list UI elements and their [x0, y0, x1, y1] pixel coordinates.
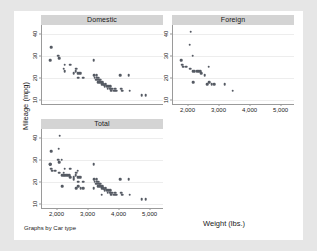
x-tick-label: 3,000 — [80, 211, 95, 217]
y-tick-label: 10 — [31, 97, 38, 103]
data-point — [58, 134, 61, 137]
data-point — [79, 176, 82, 179]
y-tick-mark — [39, 203, 41, 204]
data-point — [93, 163, 96, 166]
y-tick-mark — [170, 33, 172, 34]
data-point — [189, 68, 192, 71]
y-tick-mark — [39, 181, 41, 182]
data-point — [192, 81, 195, 84]
y-tick-mark — [170, 99, 172, 100]
panel-title-total: Total — [41, 119, 163, 129]
data-point — [93, 187, 96, 190]
data-point — [203, 74, 206, 77]
x-axis-title: Weight (lbs.) — [164, 219, 284, 228]
data-point — [63, 70, 66, 73]
x-tick-mark — [149, 208, 150, 210]
y-tick-label: 30 — [31, 157, 38, 163]
data-point — [121, 194, 124, 197]
x-tick-label: 2,000 — [180, 107, 195, 113]
y-tick-label: 30 — [31, 53, 38, 59]
y-tick-label: 40 — [31, 31, 38, 37]
data-point — [72, 178, 75, 181]
gridline — [173, 34, 294, 35]
data-point — [82, 187, 85, 190]
data-point — [50, 46, 53, 49]
data-point — [127, 74, 130, 77]
data-point — [49, 59, 52, 62]
x-tick-label: 3,000 — [211, 107, 226, 113]
data-point — [180, 59, 183, 62]
gridline — [42, 100, 163, 101]
data-point — [185, 65, 188, 68]
gridline — [42, 34, 163, 35]
data-point — [213, 83, 216, 86]
y-axis-title: Mileage (mpg) — [21, 82, 30, 130]
y-tick-label: 40 — [162, 31, 169, 37]
y-tick-label: 30 — [162, 53, 169, 59]
data-point — [119, 74, 122, 77]
panel-foreign: Foreign 102030402,0003,0004,0005,000 — [172, 15, 294, 105]
data-point — [76, 169, 79, 172]
data-point — [82, 180, 85, 183]
y-tick-mark — [39, 55, 41, 56]
data-point — [79, 72, 82, 75]
data-point — [144, 94, 147, 97]
data-point — [121, 90, 124, 93]
data-point — [144, 198, 147, 201]
data-point — [129, 194, 132, 197]
y-tick-label: 20 — [31, 75, 38, 81]
panel-domestic: Domestic 10203040 — [41, 15, 163, 105]
data-point — [129, 90, 132, 93]
x-tick-mark — [280, 104, 281, 106]
x-tick-label: 5,000 — [142, 211, 157, 217]
data-point — [54, 169, 57, 172]
y-tick-mark — [39, 77, 41, 78]
gridline — [42, 204, 163, 205]
data-point — [75, 68, 78, 71]
x-tick-mark — [249, 104, 250, 106]
y-tick-label: 10 — [31, 201, 38, 207]
data-point — [100, 194, 103, 197]
data-point — [207, 65, 210, 68]
data-point — [57, 147, 60, 150]
y-tick-label: 20 — [31, 179, 38, 185]
data-point — [191, 54, 194, 57]
y-tick-mark — [170, 55, 172, 56]
x-tick-label: 2,000 — [49, 211, 64, 217]
data-point — [58, 57, 61, 60]
data-point — [115, 194, 118, 197]
gridline — [42, 138, 163, 139]
data-point — [115, 90, 118, 93]
gridline — [173, 100, 294, 101]
figure-note: Graphs by Car type — [24, 225, 76, 231]
x-tick-label: 4,000 — [242, 107, 257, 113]
data-point — [141, 198, 144, 201]
gridline — [42, 182, 163, 183]
data-point — [189, 30, 192, 33]
data-point — [61, 185, 64, 188]
data-point — [231, 90, 234, 93]
data-point — [82, 76, 85, 79]
y-tick-label: 40 — [31, 135, 38, 141]
plot-area-total — [41, 129, 163, 209]
y-tick-label: 20 — [162, 75, 169, 81]
x-tick-label: 5,000 — [273, 107, 288, 113]
x-tick-mark — [56, 208, 57, 210]
figure-canvas: Mileage (mpg) Domestic 10203040 Foreign … — [14, 11, 303, 240]
x-tick-mark — [87, 208, 88, 210]
panel-total: Total 102030402,0003,0004,0005,000 — [41, 119, 163, 209]
panel-title-domestic: Domestic — [41, 15, 163, 25]
figure-root: Mileage (mpg) Domestic 10203040 Foreign … — [0, 0, 317, 251]
data-point — [200, 72, 203, 75]
data-point — [127, 178, 130, 181]
x-tick-label: 4,000 — [111, 211, 126, 217]
data-point — [69, 63, 72, 66]
gridline — [42, 78, 163, 79]
data-point — [60, 158, 63, 161]
data-point — [49, 163, 52, 166]
data-point — [119, 178, 122, 181]
x-tick-mark — [218, 104, 219, 106]
data-point — [69, 176, 72, 179]
plot-area-domestic — [41, 25, 163, 105]
data-point — [77, 76, 80, 79]
